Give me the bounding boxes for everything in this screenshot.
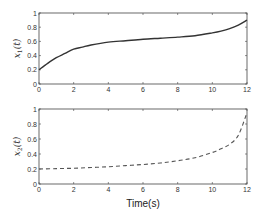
y-axis-label: x2(t) — [12, 136, 23, 156]
x-tick-label: 10 — [208, 186, 216, 193]
y-tick-label: 0 — [33, 81, 37, 88]
x-tick-label: 6 — [141, 186, 145, 193]
top-plot-x1: 02468101200.20.40.60.81x1(t) — [12, 10, 251, 94]
x-tick-label: 8 — [176, 186, 180, 193]
y-axis-label: x1(t) — [12, 38, 23, 58]
y-tick-label: 0.6 — [27, 38, 37, 45]
x-tick-label: 6 — [141, 86, 145, 93]
x-tick-label: 2 — [72, 86, 76, 93]
y-tick-label: 0.8 — [27, 121, 37, 128]
x-tick-label: 12 — [243, 86, 251, 93]
x-tick-label: 8 — [176, 86, 180, 93]
y-tick-label: 0.4 — [27, 151, 37, 158]
x-tick-label: 10 — [208, 86, 216, 93]
y-tick-label: 0.8 — [27, 24, 37, 31]
figure: 02468101200.20.40.60.81x1(t) 02468101200… — [0, 0, 263, 215]
axes-box — [39, 109, 247, 184]
y-tick-label: 1 — [33, 106, 37, 113]
x-tick-label: 2 — [72, 186, 76, 193]
y-tick-label: 0.6 — [27, 136, 37, 143]
x-tick-label: 0 — [37, 186, 41, 193]
bottom-plot-x2: 02468101200.20.40.60.81x2(t) — [12, 106, 251, 194]
x-tick-label: 0 — [37, 86, 41, 93]
x-axis-label: Time(s) — [126, 198, 160, 209]
axes-box — [39, 13, 247, 84]
y-tick-label: 0.2 — [27, 166, 37, 173]
y-tick-label: 1 — [33, 10, 37, 17]
x-tick-label: 4 — [106, 186, 110, 193]
y-tick-label: 0 — [33, 181, 37, 188]
x-tick-label: 12 — [243, 186, 251, 193]
y-tick-label: 0.4 — [27, 52, 37, 59]
x-tick-label: 4 — [106, 86, 110, 93]
y-tick-label: 0.2 — [27, 66, 37, 73]
